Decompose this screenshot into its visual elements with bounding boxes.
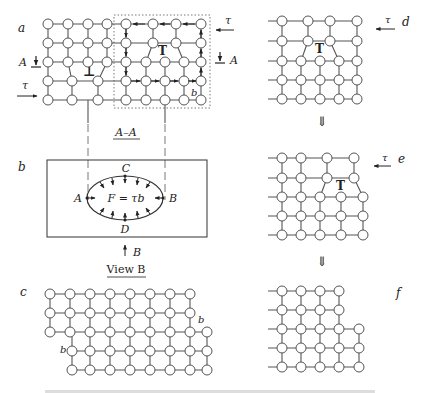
point-a-label: A (73, 192, 82, 205)
force-equation: F = τb (107, 192, 145, 205)
shear-stress-label: τ (385, 14, 391, 25)
shear-stress-label: τ (22, 79, 29, 92)
section-marker-right: A (229, 54, 238, 67)
edge-dislocation-symbol: T (315, 42, 324, 56)
panel-label-a: a (18, 21, 25, 35)
burgers-step-left: b (60, 344, 66, 355)
section-marker-left: A (18, 56, 27, 69)
view-title: View B (106, 263, 146, 276)
burgers-step-top: b (198, 314, 204, 325)
panel-label-f: f (395, 286, 403, 300)
burgers-vector-label: b (191, 87, 197, 98)
point-b-label: B (168, 192, 177, 205)
transition-arrow: ⇓ (317, 114, 328, 129)
dislocation-diagram: ⊥ T a A A τ τ b A–A b C A B D F = τb B V… (0, 0, 421, 393)
point-c-label: C (122, 162, 131, 175)
panel-label-b: b (18, 160, 26, 174)
panel-label-e: e (398, 152, 405, 166)
shear-stress-label: τ (225, 14, 232, 27)
view-arrow-label: B (132, 246, 141, 259)
edge-dislocation-symbol: ⊥ (83, 64, 95, 79)
panel-label-d: d (402, 15, 410, 29)
edge-dislocation-symbol: T (336, 179, 345, 193)
edge-dislocation-symbol: T (158, 44, 167, 58)
transition-arrow: ⇓ (317, 254, 328, 269)
section-title: A–A (114, 126, 136, 139)
shear-stress-label: τ (382, 152, 388, 163)
panel-label-c: c (20, 285, 27, 299)
point-d-label: D (120, 223, 130, 236)
